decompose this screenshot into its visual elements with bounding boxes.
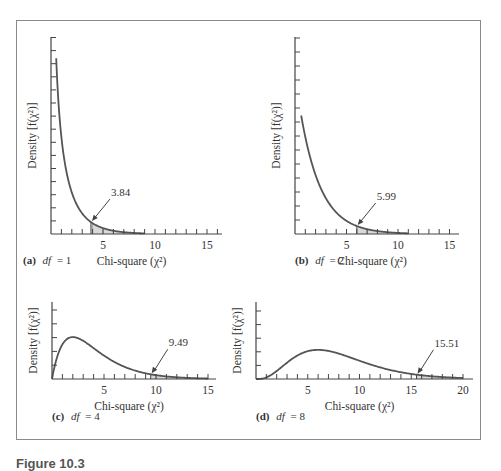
df-symbol: df — [43, 254, 54, 266]
y-axis-label: Density [f(χ²)] — [270, 102, 283, 168]
x-tick-labels: 51015 — [101, 384, 214, 396]
x-tick-labels: 51015 — [344, 239, 456, 251]
df-symbol: df — [315, 254, 326, 266]
annotation-arrow — [95, 199, 110, 218]
panel-caption: (c) df = 4 — [52, 410, 100, 423]
df-symbol: df — [71, 410, 82, 422]
y-axis-label: Density [f(χ²)] — [231, 307, 244, 373]
x-tick-label: 5 — [101, 384, 107, 396]
critical-value-label: 5.99 — [377, 190, 397, 202]
annotation-arrow — [361, 203, 376, 222]
annotation-arrow — [421, 350, 434, 371]
y-axis-label: Density [f(χ²)] — [26, 102, 39, 168]
panel-caption: (d) df = 8 — [256, 410, 305, 423]
x-tick-labels: 5101520 — [305, 384, 469, 396]
panel-caption: (a) df = 1 — [23, 254, 71, 267]
x-tick-label: 10 — [392, 239, 404, 251]
density-curve — [301, 115, 408, 233]
x-tick-label: 15 — [202, 384, 214, 396]
panel-a-df1: 51015 3.84 Density [f(χ²)] Chi-square (χ… — [23, 37, 222, 268]
x-tick-label: 5 — [344, 239, 350, 251]
x-tick-label: 10 — [149, 239, 161, 251]
y-axis-label: Density [f(χ²)] — [27, 307, 40, 373]
x-tick-label: 5 — [305, 384, 311, 396]
x-tick-labels: 51015 — [100, 239, 213, 251]
x-axis-label: Chi-square (χ²) — [94, 400, 164, 413]
x-tick-label: 15 — [406, 384, 418, 396]
x-tick-label: 10 — [354, 384, 366, 396]
panel-letter: (a) — [23, 254, 36, 267]
x-ticks — [305, 229, 449, 234]
critical-value-label: 9.49 — [169, 336, 189, 348]
y-ticks — [256, 311, 261, 365]
df-symbol: df — [276, 410, 287, 422]
y-ticks — [51, 38, 56, 221]
x-axis-label: Chi-square (χ²) — [337, 255, 407, 268]
df-value: = 8 — [291, 410, 306, 422]
density-curve — [56, 58, 144, 233]
x-tick-label: 20 — [457, 384, 469, 396]
panel-b-df2: 51015 5.99 Density [f(χ²)] Chi-square (χ… — [270, 37, 459, 268]
x-tick-label: 15 — [444, 239, 456, 251]
y-ticks — [295, 38, 300, 220]
panel-letter: (c) — [52, 410, 65, 423]
critical-value-label: 3.84 — [111, 186, 131, 198]
critical-value-label: 15.51 — [435, 337, 460, 349]
x-axis-label: Chi-square (χ²) — [325, 400, 395, 413]
figure-caption: Figure 10.3 — [16, 456, 85, 471]
panel-d-df8: 5101520 15.51 Density [f(χ²)] Chi-square… — [231, 302, 473, 423]
panel-letter: (d) — [256, 410, 270, 423]
panel-letter: (b) — [295, 254, 309, 267]
x-tick-label: 5 — [100, 239, 106, 251]
panel-c-df4: 51015 9.49 Density [f(χ²)] Chi-square (χ… — [27, 302, 216, 423]
df-value: = 1 — [57, 254, 71, 266]
x-tick-label: 10 — [150, 384, 162, 396]
df-value: = 2 — [330, 254, 344, 266]
df-value: = 4 — [85, 410, 100, 422]
panel-caption: (b) df = 2 — [295, 254, 344, 267]
x-axis-label: Chi-square (χ²) — [97, 255, 167, 268]
x-tick-label: 15 — [201, 239, 213, 251]
annotation-arrow — [155, 349, 168, 370]
